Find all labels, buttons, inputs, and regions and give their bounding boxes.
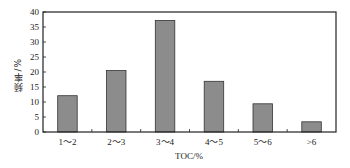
plot-frame <box>43 12 336 132</box>
x-tick-label: 3～4 <box>145 137 185 147</box>
bar <box>302 122 322 132</box>
x-tick-label: 1～2 <box>47 137 87 147</box>
y-tick-label: 40 <box>21 7 39 17</box>
y-tick-label: 30 <box>21 37 39 47</box>
bar <box>155 20 175 132</box>
bar <box>204 81 224 132</box>
x-tick-label: 5～6 <box>243 137 283 147</box>
bar <box>107 71 127 133</box>
y-tick-label: 0 <box>21 127 39 137</box>
bar-chart: 05101520253035401～22～33～44～55～6>6 频率/% T… <box>0 0 350 168</box>
y-tick-label: 5 <box>21 112 39 122</box>
bar <box>58 96 77 132</box>
x-tick-label: 2～3 <box>96 137 136 147</box>
x-tick-label: >6 <box>292 137 332 147</box>
x-axis-label: TOC/% <box>159 151 219 161</box>
y-tick-label: 35 <box>21 22 39 32</box>
y-axis-label: 频率/% <box>11 58 24 92</box>
x-tick-label: 4～5 <box>194 137 234 147</box>
y-tick-label: 10 <box>21 97 39 107</box>
bar <box>253 104 273 132</box>
